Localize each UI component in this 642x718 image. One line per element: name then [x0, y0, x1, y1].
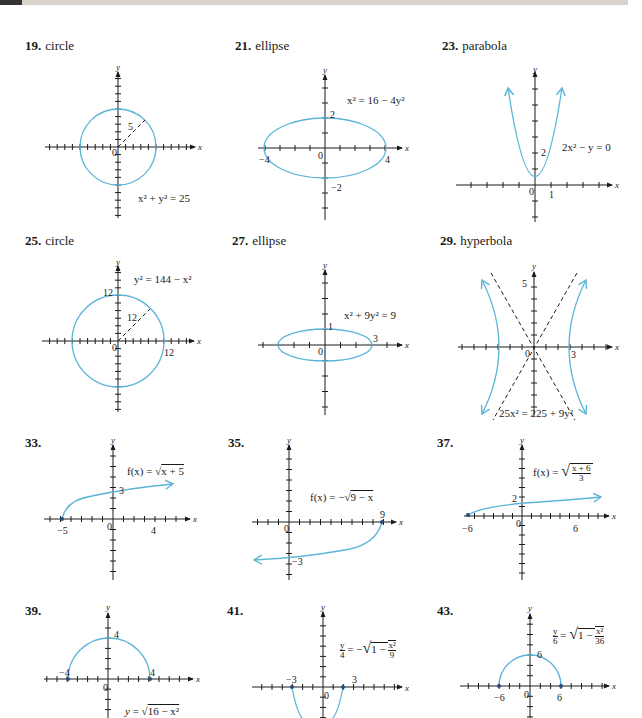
y-top-label-43: 6 [537, 650, 542, 660]
y-tick-label-33: 3 [119, 486, 124, 496]
x-axis-label-29: x [615, 343, 619, 352]
equation-35: f(x) = −√9 − x [310, 492, 373, 503]
x-neg-label-37: −6 [462, 524, 473, 534]
sqrt-33-curve [62, 484, 173, 519]
y-neg-label-35: −3 [292, 557, 303, 567]
x-tick-label-23: 1 [549, 190, 554, 200]
radius-label-25: 12 [127, 313, 137, 323]
equation-23: 2x² − y = 0 [562, 142, 611, 153]
y-axis-label-23: y [533, 65, 537, 74]
x-axis-label-39: x [196, 675, 200, 684]
y-axis-label-41: y [321, 603, 325, 612]
y-axis-label-37: y [520, 436, 524, 445]
origin-label-41: 0 [324, 691, 329, 701]
origin-label-23: 0 [529, 187, 534, 197]
equation-29: 25x² = 225 + 9y² [499, 408, 573, 419]
x-axis-label-23: x [615, 181, 619, 190]
radius-label-19: 5 [128, 122, 133, 132]
y-tick-label-23: 2 [541, 148, 546, 158]
x-right-label-25: 12 [164, 348, 174, 358]
endpoint-dot [341, 685, 345, 689]
origin-label-39: 0 [103, 683, 108, 693]
x-axis-label-25: x [197, 337, 201, 346]
y-top-label-25: 12 [103, 288, 113, 298]
origin-label-37: 0 [516, 519, 521, 529]
y-neg-label-21: −2 [331, 183, 342, 193]
endpoint-dot [290, 685, 294, 689]
origin-label-25: 0 [112, 343, 117, 353]
endpoint-dot [497, 684, 501, 688]
x-pos-label-35: 9 [380, 510, 385, 520]
y-axis-label-21: y [323, 66, 327, 75]
x-pos-label-41: 3 [352, 675, 357, 685]
x-neg-label-21: −4 [259, 155, 270, 165]
x-pos-label-33: 4 [151, 526, 156, 536]
equation-43: y6 = √1 − x²36 [553, 626, 604, 646]
x-pos-label-39: 4 [150, 668, 155, 678]
y-top-label-39: 4 [114, 630, 119, 640]
y-top-label-27: 1 [328, 322, 333, 332]
endpoint-dot [466, 513, 470, 517]
equation-37: f(x) = √x + 63 [533, 463, 593, 483]
axis-ticks [258, 459, 384, 575]
x-axis-label-35: x [399, 518, 403, 527]
endpoint-dot [559, 684, 563, 688]
y-axis-label-25: y [116, 258, 120, 267]
sqrt-35-curve [254, 522, 382, 560]
equation-41: y4 = −√1 − x²9 [340, 640, 396, 660]
y-tick-label-37: 2 [512, 494, 517, 504]
y-axis-label-19: y [116, 63, 120, 72]
x-axis-label-43: x [612, 682, 616, 691]
semiellipse-41-curve [292, 687, 343, 718]
x-axis-label-37: x [612, 512, 616, 521]
y-axis-label-33: y [111, 436, 115, 445]
origin-label-21: 0 [318, 151, 323, 161]
x-axis-label-41: x [405, 684, 409, 693]
y-pos-label-21: 2 [330, 110, 335, 120]
endpoint-dot [60, 517, 64, 521]
equation-25: y² = 144 − x² [134, 274, 192, 285]
y-axis-label-39: y [106, 603, 110, 612]
origin-label-35: 0 [284, 524, 289, 534]
x-axis-label-27: x [405, 341, 409, 350]
y-top-label-29: 5 [522, 279, 527, 289]
x-neg-label-41: −3 [286, 675, 297, 685]
equation-27: x² + 9y² = 9 [344, 310, 396, 321]
endpoint-dot [380, 520, 384, 524]
x-axis-label-33: x [193, 515, 197, 524]
equation-39: yy = = √16 − x² [125, 706, 179, 717]
origin-label-19: 0 [112, 148, 117, 158]
origin-label-33: 0 [107, 522, 112, 532]
x-right-label-29: 3 [571, 350, 576, 360]
x-neg-label-33: −5 [57, 526, 68, 536]
y-axis-label-27: y [323, 261, 327, 270]
y-axis-label-35: y [287, 436, 291, 445]
x-axis-label-19: x [198, 143, 202, 152]
origin-label-29: 0 [525, 349, 530, 359]
x-pos-label-43: 6 [557, 693, 562, 703]
origin-label-43: 0 [524, 690, 529, 700]
y-axis-label-43: y [528, 604, 532, 613]
equation-19: x² + y² = 25 [138, 193, 190, 204]
equation-33: f(x) = √x + 5 [127, 466, 184, 477]
x-pos-label-37: 6 [573, 524, 578, 534]
y-axis-label-29: y [532, 262, 536, 271]
sqrt-37-curve [468, 497, 601, 515]
x-right-label-27: 3 [373, 334, 378, 344]
x-axis-label-21: x [405, 144, 409, 153]
x-neg-label-43: −6 [494, 693, 505, 703]
origin-label-27: 0 [318, 347, 323, 357]
x-neg-label-39: −4 [59, 668, 70, 678]
equation-21: x² = 16 − 4y² [347, 95, 405, 106]
x-pos-label-21: 4 [385, 155, 390, 165]
